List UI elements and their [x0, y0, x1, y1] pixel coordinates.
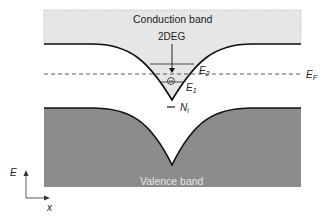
twodeg-label: 2DEG	[158, 32, 185, 42]
energy-axis-label: E	[10, 168, 17, 178]
position-axis-label: x	[47, 203, 52, 213]
e2-label: E2	[199, 66, 210, 77]
e1-label: E1	[186, 83, 197, 94]
conduction-band-label: Conduction band	[133, 14, 212, 25]
energy-axis-arrow-icon	[24, 170, 29, 176]
valence-band-label: Valence band	[140, 176, 203, 187]
ef-label: EF	[306, 70, 317, 81]
ni-label: Ni	[180, 103, 189, 114]
position-axis-arrow-icon	[44, 196, 50, 201]
